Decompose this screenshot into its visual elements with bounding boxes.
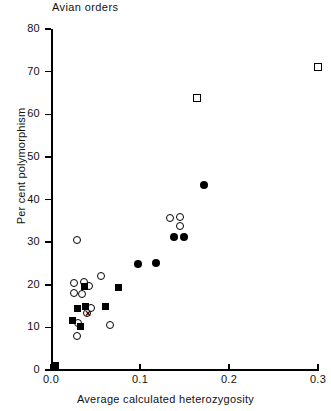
x-axis-label: Average calculated heterozygosity	[0, 393, 331, 405]
data-point-cross: ×	[84, 310, 92, 318]
data-point-filled-circle	[180, 233, 188, 241]
data-point-open-circle	[73, 332, 81, 340]
x-tick-label-0.0: 0.0	[31, 373, 71, 385]
data-point-open-circle	[176, 222, 184, 230]
y-tick-20	[45, 284, 51, 286]
x-tick-0.1	[139, 364, 141, 370]
y-tick-40	[45, 199, 51, 201]
data-point-open-circle	[106, 321, 114, 329]
y-tick-label-30: 30	[6, 235, 40, 247]
data-point-open-square	[193, 94, 201, 102]
data-point-open-circle	[166, 214, 174, 222]
data-point-open-circle	[70, 289, 78, 297]
data-point-open-circle	[176, 213, 184, 221]
y-tick-label-70: 70	[6, 65, 40, 77]
y-tick-10	[45, 327, 51, 329]
data-point-filled-square	[74, 305, 81, 312]
scatter-chart: Avian orders Per cent polymorphism Avera…	[0, 0, 331, 411]
data-point-filled-circle	[152, 259, 160, 267]
data-point-open-circle	[70, 279, 78, 287]
data-point-filled-circle	[134, 260, 142, 268]
y-tick-label-10: 10	[6, 320, 40, 332]
origin-marker	[51, 362, 59, 370]
y-tick-50	[45, 156, 51, 158]
data-point-filled-square	[115, 284, 122, 291]
data-point-open-circle	[73, 236, 81, 244]
x-tick-0.3	[317, 364, 319, 370]
y-tick-80	[45, 28, 51, 30]
x-tick-label-0.1: 0.1	[120, 373, 160, 385]
y-tick-70	[45, 71, 51, 73]
data-point-filled-square	[69, 317, 76, 324]
x-tick-label-0.3: 0.3	[298, 373, 331, 385]
y-tick-label-80: 80	[6, 22, 40, 34]
y-tick-label-40: 40	[6, 193, 40, 205]
chart-title: Avian orders	[52, 1, 118, 13]
y-tick-label-20: 20	[6, 278, 40, 290]
y-tick-30	[45, 241, 51, 243]
data-point-open-circle	[97, 272, 105, 280]
data-point-filled-circle	[170, 233, 178, 241]
x-tick-label-0.2: 0.2	[209, 373, 249, 385]
data-point-filled-square	[77, 323, 84, 330]
data-point-open-square	[314, 63, 322, 71]
data-point-filled-circle	[200, 181, 208, 189]
data-point-filled-square	[102, 303, 109, 310]
y-axis-line	[51, 29, 53, 371]
x-axis-line	[51, 369, 319, 371]
y-tick-label-50: 50	[6, 150, 40, 162]
data-point-filled-square	[81, 283, 88, 290]
x-tick-0.0	[50, 364, 52, 370]
y-tick-label-60: 60	[6, 107, 40, 119]
x-tick-0.2	[228, 364, 230, 370]
data-point-open-circle	[78, 290, 86, 298]
y-tick-60	[45, 114, 51, 116]
